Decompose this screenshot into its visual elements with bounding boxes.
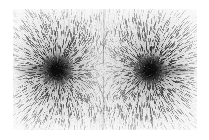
iron-filings-photograph: [13, 9, 197, 130]
figure-root: [0, 0, 209, 140]
field-lines-canvas: [13, 9, 197, 130]
